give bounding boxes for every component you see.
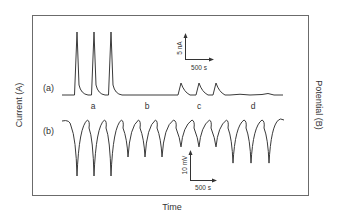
- trace-a-current: [62, 32, 283, 95]
- chart: (a) (b) a b c d 5 nA 500 s 10 mV 500 s T…: [0, 0, 340, 222]
- trace-a-label: (a): [43, 83, 54, 93]
- segment-label-b: b: [145, 101, 150, 111]
- trace-b-potential: [62, 119, 284, 176]
- segment-label-a: a: [91, 101, 96, 111]
- segment-label-d: d: [251, 101, 256, 111]
- scale-bar-a: 5 nA 500 s: [176, 33, 214, 71]
- scale-b-y-label: 10 mV: [181, 155, 188, 174]
- scale-a-x-label: 500 s: [191, 64, 208, 71]
- x-axis-label: Time: [162, 202, 182, 212]
- trace-b-label: (b): [43, 126, 54, 136]
- scale-b-x-label: 500 s: [195, 184, 212, 191]
- scale-bar-b: 10 mV 500 s: [181, 150, 217, 191]
- y-axis-label-right: Potential (B): [314, 80, 324, 130]
- scale-a-y-label: 5 nA: [176, 41, 183, 55]
- plot-frame: [33, 16, 309, 196]
- segment-label-c: c: [197, 101, 202, 111]
- y-axis-label-left: Current (A): [14, 83, 24, 128]
